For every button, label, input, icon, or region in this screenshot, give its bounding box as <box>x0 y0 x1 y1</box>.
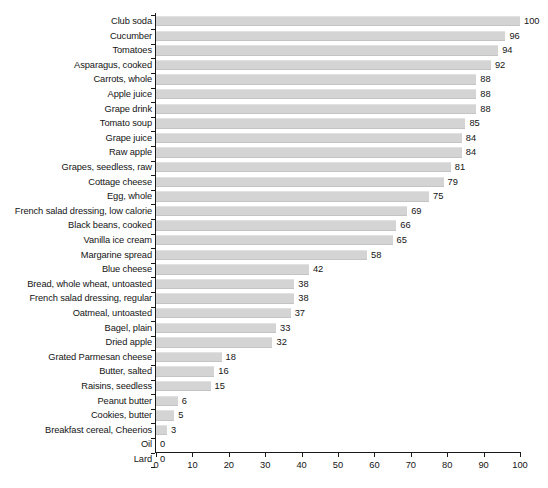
bar-row: Grape drink88 <box>0 102 548 117</box>
category-label: Raisins, seedless <box>81 379 156 394</box>
x-axis-tick <box>302 453 303 457</box>
bar <box>156 250 367 260</box>
x-axis-tick <box>411 453 412 457</box>
y-axis-tick <box>151 131 155 132</box>
category-label: Tomatoes <box>112 43 156 58</box>
category-label: Butter, salted <box>99 364 156 379</box>
bar-value-label: 79 <box>444 175 458 190</box>
y-axis-tick <box>151 44 155 45</box>
category-label: Cucumber <box>110 29 156 44</box>
bar-row: Blue cheese42 <box>0 262 548 277</box>
y-axis-tick <box>151 336 155 337</box>
y-axis-tick <box>151 102 155 103</box>
bar-row: French salad dressing, low calorie69 <box>0 204 548 219</box>
bar <box>156 381 211 391</box>
bar-row: Bread, whole wheat, untoasted38 <box>0 277 548 292</box>
bar-row: Apple juice88 <box>0 87 548 102</box>
category-label: Grated Parmesan cheese <box>48 350 156 365</box>
bar-value-label: 88 <box>476 72 490 87</box>
bar-row: Breakfast cereal, Cheerios3 <box>0 423 548 438</box>
y-axis-tick <box>151 175 155 176</box>
bar <box>156 74 476 84</box>
bar-value-label: 37 <box>291 306 305 321</box>
category-label: Margarine spread <box>81 248 156 263</box>
bar-value-label: 85 <box>465 116 479 131</box>
bar-row: Cookies, butter5 <box>0 408 548 423</box>
category-label: Oatmeal, untoasted <box>73 306 156 321</box>
bar-value-label: 15 <box>211 379 225 394</box>
y-axis-tick <box>151 307 155 308</box>
bar-row: Tomatoes94 <box>0 43 548 58</box>
bar-row: Egg, whole75 <box>0 189 548 204</box>
y-axis-tick <box>151 219 155 220</box>
bar <box>156 133 462 143</box>
bar-row: Grapes, seedless, raw81 <box>0 160 548 175</box>
y-axis-tick <box>151 409 155 410</box>
bar-value-label: 0 <box>156 437 165 452</box>
bar <box>156 45 498 55</box>
bar <box>156 162 451 172</box>
y-axis-tick <box>151 190 155 191</box>
y-axis-tick <box>151 292 155 293</box>
x-axis-tick <box>484 453 485 457</box>
bar <box>156 60 491 70</box>
bar-row: Cottage cheese79 <box>0 175 548 190</box>
bar-row: Tomato soup85 <box>0 116 548 131</box>
y-axis-tick <box>151 73 155 74</box>
bar-row: Cucumber96 <box>0 29 548 44</box>
y-axis-tick <box>151 277 155 278</box>
x-axis-tick-label: 50 <box>333 460 343 470</box>
bar-row: Raw apple84 <box>0 145 548 160</box>
bar <box>156 352 222 362</box>
bar-row: Club soda100 <box>0 14 548 29</box>
bar <box>156 104 476 114</box>
bar-row: Grape juice84 <box>0 131 548 146</box>
bar-value-label: 69 <box>407 204 421 219</box>
y-axis-tick <box>151 248 155 249</box>
bar <box>156 235 393 245</box>
bar-row: Asparagus, cooked92 <box>0 58 548 73</box>
bar-value-label: 38 <box>294 291 308 306</box>
bar-value-label: 96 <box>505 29 519 44</box>
bar <box>156 220 396 230</box>
bar-row: French salad dressing, regular38 <box>0 291 548 306</box>
x-axis-tick-label: 80 <box>442 460 452 470</box>
bar-value-label: 65 <box>393 233 407 248</box>
x-axis-tick <box>265 453 266 457</box>
bar-value-label: 32 <box>272 335 286 350</box>
x-axis-tick-label: 20 <box>224 460 234 470</box>
bar-value-label: 88 <box>476 102 490 117</box>
x-axis-tick-label: 10 <box>187 460 197 470</box>
x-axis-tick-label: 90 <box>478 460 488 470</box>
y-axis-tick <box>151 263 155 264</box>
category-label: Egg, whole <box>107 189 156 204</box>
category-label: French salad dressing, low calorie <box>15 204 156 219</box>
bar <box>156 425 167 435</box>
bar <box>156 366 214 376</box>
y-axis-tick <box>151 161 155 162</box>
bar-value-label: 88 <box>476 87 490 102</box>
category-label: Cottage cheese <box>88 175 156 190</box>
y-axis-tick <box>151 350 155 351</box>
category-label: Apple juice <box>108 87 156 102</box>
bar <box>156 396 178 406</box>
x-axis-tick-label: 100 <box>512 460 528 470</box>
x-axis-tick-label: 70 <box>406 460 416 470</box>
category-label: Oil <box>141 437 156 452</box>
y-axis-tick <box>151 29 155 30</box>
bar-row: Oil0 <box>0 437 548 452</box>
bar-value-label: 92 <box>491 58 505 73</box>
bar-row: Vanilla ice cream65 <box>0 233 548 248</box>
bar-value-label: 84 <box>462 131 476 146</box>
bar-value-label: 6 <box>178 394 187 409</box>
plot-area: Club soda100Cucumber96Tomatoes94Asparagu… <box>0 0 548 488</box>
bar-value-label: 100 <box>520 14 540 29</box>
x-axis-tick <box>156 453 157 457</box>
bar-value-label: 81 <box>451 160 465 175</box>
x-axis-tick <box>338 453 339 457</box>
bar-value-label: 16 <box>214 364 228 379</box>
category-label: Tomato soup <box>100 116 156 131</box>
y-axis-tick <box>151 58 155 59</box>
y-axis-tick <box>151 321 155 322</box>
category-label: Peanut butter <box>97 394 156 409</box>
